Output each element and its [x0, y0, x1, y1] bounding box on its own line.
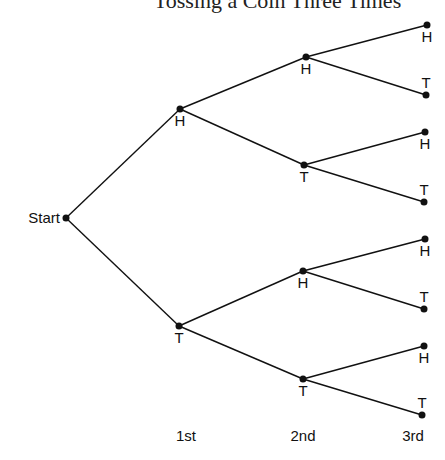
tree-edge: [66, 218, 179, 326]
start-label: Start: [28, 209, 61, 226]
heads-label: H: [298, 274, 309, 291]
heads-label: H: [301, 60, 312, 77]
tree-edge: [304, 165, 424, 202]
outcome-node: [421, 306, 428, 313]
tails-label: T: [419, 288, 428, 305]
start-node: [63, 215, 70, 222]
tree-edge: [66, 109, 180, 218]
tree-edge: [180, 57, 306, 109]
tails-label: T: [419, 181, 428, 198]
tree-edge: [179, 271, 303, 326]
level-labels: 1st2nd3rd: [176, 427, 424, 444]
heads-label: H: [175, 112, 186, 129]
coin-toss-tree-diagram: HTHTHTHTHTHTHT Start 1st2nd3rd: [0, 0, 445, 460]
heads-label: H: [420, 242, 431, 259]
toss-level-label-1: 1st: [176, 427, 197, 444]
toss-level-label-2: 2nd: [290, 427, 315, 444]
tree-edges: [66, 25, 427, 415]
tree-edge: [303, 271, 424, 309]
tree-edge: [179, 326, 303, 379]
tree-edge: [303, 346, 424, 379]
outcome-node: [419, 412, 426, 419]
heads-label: H: [422, 28, 433, 45]
tree-edge: [303, 239, 425, 271]
tree-edge: [304, 132, 425, 165]
tails-label: T: [421, 74, 430, 91]
heads-label: H: [420, 135, 431, 152]
tree-edge: [306, 25, 427, 57]
tails-label: T: [299, 168, 308, 185]
tails-label: T: [298, 382, 307, 399]
toss-level-label-3: 3rd: [402, 427, 424, 444]
tails-label: T: [417, 394, 426, 411]
tree-edge: [180, 109, 304, 165]
outcome-node: [423, 92, 430, 99]
tails-label: T: [174, 329, 183, 346]
tree-edge: [303, 379, 422, 415]
tree-edge: [306, 57, 426, 95]
outcome-node: [421, 199, 428, 206]
heads-label: H: [419, 349, 430, 366]
